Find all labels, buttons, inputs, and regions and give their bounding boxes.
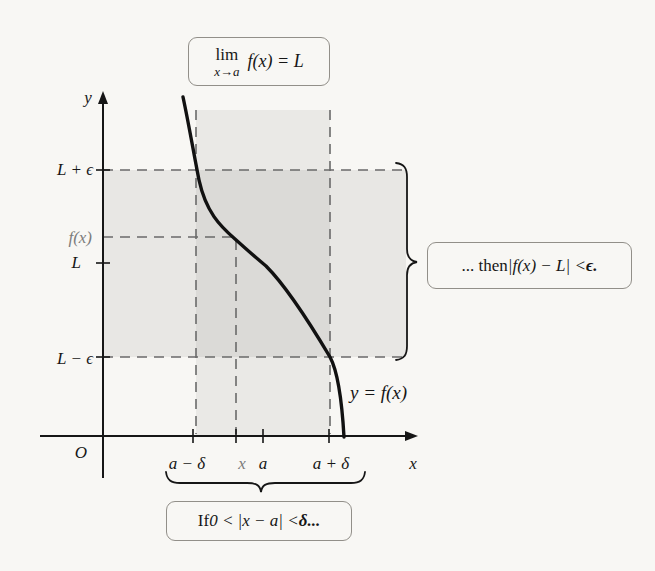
x-axis-arrowhead — [405, 431, 418, 441]
lim-word: lim — [216, 46, 239, 63]
then-prefix: ... then — [462, 256, 508, 276]
limit-formula-box: lim x→a f(x) = L — [188, 37, 330, 86]
label-a-minus-delta: a − δ — [169, 455, 205, 472]
delta-symbol: δ... — [299, 511, 320, 531]
then-condition-box: ... then |f(x) − L| < ϵ. — [427, 242, 632, 289]
y-axis-arrowhead — [98, 91, 108, 104]
then-math: |f(x) − L| < — [508, 256, 586, 276]
lim-operator: lim x→a — [214, 46, 239, 78]
label-a: a — [259, 455, 268, 472]
limit-definition-figure: y x O L + ϵ f(x) L L − ϵ a − δ x a a + δ… — [0, 0, 655, 571]
curve-equation-label: y = f(x) — [350, 383, 407, 402]
label-L: L — [72, 254, 81, 271]
x-axis-label: x — [409, 455, 417, 472]
lim-subscript: x→a — [214, 65, 239, 78]
label-a-plus-delta: a + δ — [313, 455, 349, 472]
label-L-plus-epsilon: L + ϵ — [57, 161, 93, 178]
if-math: 0 < |x − a| < — [209, 511, 299, 531]
label-L-minus-epsilon: L − ϵ — [57, 350, 93, 367]
y-axis-label: y — [84, 89, 92, 106]
delta-brace — [166, 472, 365, 492]
if-condition-box: If 0 < |x − a| < δ... — [166, 501, 352, 541]
epsilon-symbol: ϵ. — [586, 256, 598, 276]
lim-expression: f(x) = L — [248, 51, 304, 72]
if-prefix: If — [198, 511, 209, 531]
origin-label: O — [75, 444, 87, 461]
label-x-point: x — [238, 455, 246, 472]
label-f-of-x: f(x) — [68, 229, 92, 246]
